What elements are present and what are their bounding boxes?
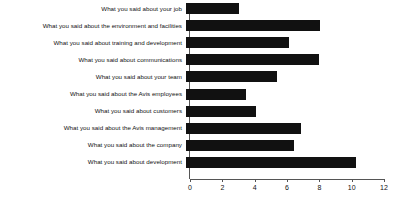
- category-label: What you said about customers: [0, 107, 186, 115]
- bar-track: [186, 0, 411, 17]
- bar: [186, 20, 320, 31]
- bar-row: What you said about customers: [0, 103, 411, 120]
- x-axis-tick: [352, 179, 353, 182]
- x-axis-tick-label: 6: [285, 183, 289, 192]
- x-axis-tick-label: 8: [317, 183, 321, 192]
- x-axis-tick-label: 12: [380, 183, 388, 192]
- bar-row: What you said about training and develop…: [0, 34, 411, 51]
- bar: [186, 123, 301, 134]
- x-axis-tick: [222, 179, 223, 182]
- bar-row: What you said about the environment and …: [0, 17, 411, 34]
- bar: [186, 89, 246, 100]
- bar: [186, 3, 239, 14]
- bar: [186, 54, 319, 65]
- bar-row: What you said about your job: [0, 0, 411, 17]
- category-label: What you said about the Avis employees: [0, 90, 186, 98]
- bar-track: [186, 103, 411, 120]
- bar-chart: What you said about your jobWhat you sai…: [0, 0, 411, 205]
- bar-track: [186, 68, 411, 85]
- bar-row: What you said about the company: [0, 137, 411, 154]
- bar-track: [186, 85, 411, 102]
- bar-track: [186, 34, 411, 51]
- category-label: What you said about your team: [0, 73, 186, 81]
- x-axis-tick-label: 10: [348, 183, 356, 192]
- bar-row: What you said about development: [0, 154, 411, 171]
- bar-track: [186, 51, 411, 68]
- category-label: What you said about communications: [0, 56, 186, 64]
- category-label: What you said about the company: [0, 141, 186, 149]
- bar: [186, 157, 356, 168]
- bar-track: [186, 17, 411, 34]
- bar: [186, 140, 294, 151]
- category-label: What you said about the environment and …: [0, 22, 186, 30]
- x-axis-tick: [287, 179, 288, 182]
- bar-row: What you said about your team: [0, 68, 411, 85]
- x-axis-tick-label: 0: [188, 183, 192, 192]
- category-label: What you said about the Avis management: [0, 124, 186, 132]
- bar-track: [186, 154, 411, 171]
- x-axis-tick-label: 2: [220, 183, 224, 192]
- category-label: What you said about your job: [0, 5, 186, 13]
- x-axis-tick: [255, 179, 256, 182]
- bar-rows: What you said about your jobWhat you sai…: [0, 0, 411, 171]
- x-axis-tick: [319, 179, 320, 182]
- bar-row: What you said about the Avis employees: [0, 85, 411, 102]
- bar: [186, 37, 289, 48]
- bar-track: [186, 137, 411, 154]
- bar-track: [186, 120, 411, 137]
- bar: [186, 71, 277, 82]
- x-axis-tick: [190, 179, 191, 182]
- bar-row: What you said about the Avis management: [0, 120, 411, 137]
- category-label: What you said about development: [0, 158, 186, 166]
- x-axis-tick: [384, 179, 385, 182]
- category-label: What you said about training and develop…: [0, 39, 186, 47]
- x-axis-tick-label: 4: [253, 183, 257, 192]
- bar: [186, 106, 256, 117]
- bar-row: What you said about communications: [0, 51, 411, 68]
